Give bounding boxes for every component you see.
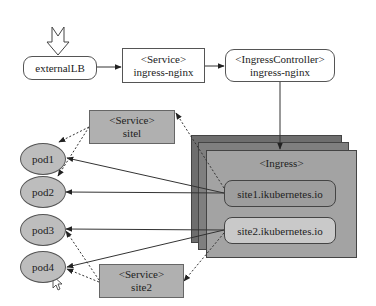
pod1-label: pod1 [32, 153, 54, 166]
service-site1-name: sitel [123, 127, 141, 140]
service-site2-node[interactable]: <Service> site2 [99, 264, 184, 298]
service-site2-name: site2 [131, 281, 152, 294]
ingress-controller-stereotype: <IngressController> [235, 53, 324, 66]
service-ingress-name: ingress-nginx [134, 66, 194, 79]
pod4-node[interactable]: pod4 [20, 251, 66, 283]
pod4-label: pod4 [32, 261, 54, 274]
entry-arrow-icon [47, 27, 69, 55]
service-site1-node[interactable]: <Service> sitel [89, 110, 175, 144]
pod1-node[interactable]: pod1 [20, 143, 66, 175]
ingress-controller-name: ingress-nginx [250, 66, 310, 79]
external-lb-node[interactable]: externalLB [23, 56, 97, 80]
ingress-controller-node[interactable]: <IngressController> ingress-nginx [225, 49, 335, 82]
service-site1-stereotype: <Service> [109, 114, 154, 127]
pod3-node[interactable]: pod3 [20, 214, 66, 246]
service-ingress-nginx-node[interactable]: <Service> ingress-nginx [122, 48, 205, 83]
service-ingress-stereotype: <Service> [141, 53, 186, 66]
pod2-node[interactable]: pod2 [20, 176, 66, 208]
external-lb-label: externalLB [35, 62, 84, 75]
pod2-label: pod2 [32, 186, 54, 199]
pod3-label: pod3 [32, 224, 54, 237]
service-site2-stereotype: <Service> [119, 268, 164, 281]
